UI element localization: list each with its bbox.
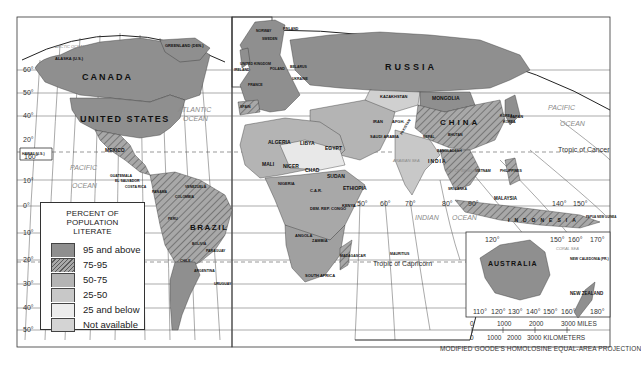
label-dem-rep-congo: DEM. REP. CONGO [310, 206, 346, 211]
label-mali: MALI [262, 161, 275, 167]
label-mongolia: MONGOLIA [432, 95, 460, 101]
label-venezuela: VENEZUELA [185, 185, 207, 189]
label-indian-1: INDIAN [415, 214, 440, 221]
label-indian-2: OCEAN [452, 214, 478, 221]
svg-text:140°: 140° [526, 308, 541, 315]
label-nigeria: NIGERIA [278, 181, 295, 186]
label-south-africa: SOUTH AFRICA [305, 273, 335, 278]
label-mauritius: MAURITIUS [390, 252, 410, 256]
svg-text:50°: 50° [23, 326, 34, 333]
label-chile: CHILE [180, 259, 191, 263]
label-panama: PANAMA [152, 190, 168, 194]
label-bay-of-bengal: BAY OF BENGAL [446, 168, 478, 173]
label-libya: LIBYA [300, 140, 315, 146]
label-colombia: COLOMBIA [175, 195, 195, 199]
legend-item: 50-75 [51, 272, 144, 287]
label-france: FRANCE [248, 83, 263, 87]
label-pacific-west-1: PACIFIC [70, 164, 98, 171]
legend-swatch-75-95 [51, 258, 75, 272]
label-sudan: SUDAN [327, 173, 345, 179]
svg-text:150°: 150° [550, 236, 565, 243]
label-poland: POLAND [270, 67, 285, 71]
label-pacific-east-1: PACIFIC [548, 104, 576, 111]
svg-text:0°: 0° [23, 202, 30, 209]
svg-text:140°: 140° [552, 200, 567, 207]
label-spain: SPAIN [240, 105, 251, 109]
label-new-zealand: NEW ZEALAND [570, 291, 604, 296]
label-brazil: BRAZIL [190, 223, 228, 232]
svg-text:160°: 160° [568, 236, 583, 243]
label-bangladesh: BANGLADESH [437, 149, 462, 153]
legend-swatch-not-available [51, 318, 75, 332]
label-india: INDIA [428, 158, 447, 164]
svg-text:30°: 30° [23, 280, 34, 287]
legend-title: PERCENT OF POPULATION LITERATE [41, 209, 144, 236]
label-png: PAPUA NEW GUINEA [586, 215, 617, 219]
label-bhutan: BHUTAN [448, 133, 463, 137]
svg-text:160°: 160° [561, 308, 576, 315]
scale-labels: 0 1000 2000 3000 MILES 0 1000 2000 3000 … [470, 320, 620, 343]
svg-text:50°: 50° [23, 89, 34, 96]
label-sri-lanka: SRI LANKA [448, 187, 468, 191]
label-finland: FINLAND [283, 27, 299, 31]
svg-text:40°: 40° [23, 304, 34, 311]
svg-text:130°: 130° [508, 308, 523, 315]
label-alaska: ALASKA (U.S.) [55, 56, 84, 61]
svg-text:120°: 120° [491, 308, 506, 315]
label-atlantic-2: OCEAN [183, 115, 209, 122]
label-new-caledonia: NEW CALEDONIA (FR.) [570, 257, 609, 261]
svg-text:80°: 80° [442, 200, 453, 207]
svg-text:110°: 110° [473, 308, 487, 315]
label-iran: IRAN [373, 119, 383, 124]
label-greenland: GREENLAND (DEN.) [165, 43, 204, 48]
label-afghan: AFGH. [392, 119, 404, 124]
label-tropic-of-capricorn: Tropic of Capricorn [373, 260, 432, 268]
label-angola: ANGOLA [295, 233, 312, 238]
label-japan: JAPAN [510, 114, 523, 119]
label-ethiopia: ETHIOPIA [343, 185, 367, 191]
label-arctic-ocean: ARCTIC OCEAN [54, 44, 85, 49]
label-uruguay: URUGUAY [214, 282, 232, 286]
label-tropic-of-cancer: Tropic of Cancer [558, 146, 610, 154]
legend-item: 95 and above [51, 242, 144, 257]
label-car: C.A.R. [310, 188, 322, 193]
label-paraguay: PARAGUAY [206, 249, 226, 253]
label-malaysia: MALAYSIA [494, 196, 518, 201]
label-coral-sea: CORAL SEA [556, 246, 579, 251]
label-zambia: ZAMBIA [312, 238, 328, 243]
legend-item: 25-50 [51, 287, 144, 302]
label-ireland: IRELAND [234, 68, 250, 72]
label-guatemala: GUATEMALA [110, 174, 133, 178]
svg-text:150°: 150° [573, 200, 588, 207]
svg-text:60°: 60° [380, 200, 391, 207]
label-nepal: NEPAL [423, 135, 435, 139]
label-niger: NIGER [283, 163, 299, 169]
label-norway: NORWAY [256, 29, 272, 33]
label-kazakhstan: KAZAKHSTAN [380, 94, 408, 99]
label-sweden: SWEDEN [262, 37, 278, 41]
label-madagascar: MADAGASCAR [340, 254, 366, 258]
label-atlantic-1: ATLANTIC [177, 106, 212, 113]
label-arabian-sea: ARABIAN SEA [392, 158, 420, 163]
label-canada: CANADA [82, 72, 133, 82]
label-indonesia: INDONESIA [508, 217, 581, 223]
legend-swatch-95-above [51, 243, 75, 257]
label-saudi-arabia: SAUDI ARABIA [370, 134, 399, 139]
label-korea-s: KOREA [503, 120, 516, 124]
label-costa-rica: COSTA RICA [125, 185, 147, 189]
svg-text:60°: 60° [23, 66, 34, 73]
svg-text:20°: 20° [23, 136, 34, 143]
svg-text:20°: 20° [23, 256, 34, 263]
svg-text:90°: 90° [468, 200, 479, 207]
projection-label: MODIFIED GOODE'S HOMOLOSINE EQUAL-AREA P… [440, 345, 641, 352]
label-pacific-east-2: OCEAN [560, 120, 586, 127]
svg-text:40°: 40° [23, 112, 34, 119]
label-bolivia: BOLIVIA [192, 242, 207, 246]
svg-text:50°: 50° [357, 200, 368, 207]
legend: PERCENT OF POPULATION LITERATE 95 and ab… [40, 202, 145, 330]
svg-text:120°: 120° [485, 236, 500, 243]
label-australia: AUSTRALIA [488, 260, 537, 267]
label-china: CHINA [440, 118, 480, 127]
legend-item: Not available [51, 317, 144, 332]
legend-swatch-25-50 [51, 288, 75, 302]
